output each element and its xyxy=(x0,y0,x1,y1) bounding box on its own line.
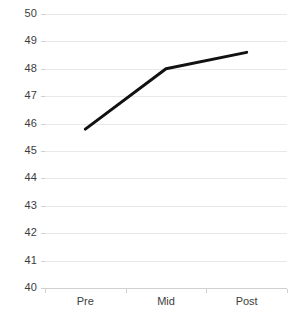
series-line xyxy=(85,52,246,129)
series-line-group xyxy=(0,0,303,320)
line-chart: 4041424344454647484950 PreMidPost xyxy=(0,0,303,320)
